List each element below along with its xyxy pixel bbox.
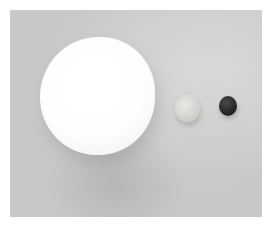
large-white-sphere — [40, 37, 155, 155]
medium-light-sphere — [175, 95, 200, 122]
photo — [10, 10, 262, 217]
small-dark-sphere — [219, 96, 237, 116]
